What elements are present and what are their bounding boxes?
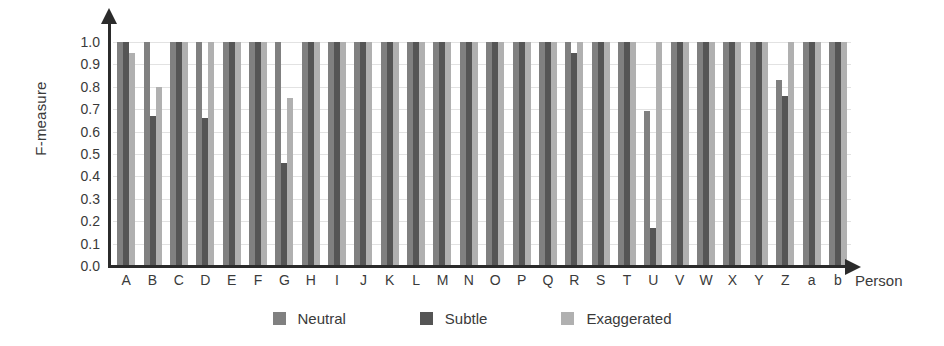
bar[interactable]: [156, 87, 162, 266]
x-axis-tick-label: A: [113, 272, 139, 288]
x-axis-tick-label: Y: [746, 272, 772, 288]
y-axis-tick-labels: 1.00.90.80.70.60.50.40.30.20.10.0: [56, 34, 100, 266]
bar[interactable]: [630, 42, 636, 266]
x-axis-tick-label: W: [693, 272, 719, 288]
x-axis-line: [108, 265, 848, 268]
bar[interactable]: [208, 42, 214, 266]
bar-group: [298, 42, 324, 266]
bar[interactable]: [129, 53, 135, 266]
bar[interactable]: [551, 42, 557, 266]
bar-group: [640, 42, 666, 266]
bar[interactable]: [525, 42, 531, 266]
bar[interactable]: [788, 42, 794, 266]
x-axis-tick-label: U: [640, 272, 666, 288]
x-axis-tick-label: P: [508, 272, 534, 288]
bar-group: [113, 42, 139, 266]
legend-entry[interactable]: Exaggerated: [561, 310, 671, 327]
legend-entry[interactable]: Neutral: [273, 310, 346, 327]
bar-group: [535, 42, 561, 266]
x-axis-tick-label: H: [298, 272, 324, 288]
bar-group: [429, 42, 455, 266]
bar[interactable]: [762, 42, 768, 266]
x-axis-tick-label: G: [271, 272, 297, 288]
y-axis-arrow-icon: [101, 8, 117, 24]
x-axis-tick-labels: ABCDEFGHIJKLMNOPQRSTUVWXYZab: [113, 272, 851, 288]
x-axis-tick-label: C: [166, 272, 192, 288]
y-axis-tick-label: 0.3: [56, 191, 100, 207]
x-axis-tick-label: T: [614, 272, 640, 288]
bar-group: [192, 42, 218, 266]
bar-group: [693, 42, 719, 266]
x-axis-tick-label: Z: [772, 272, 798, 288]
x-axis-tick-label: J: [350, 272, 376, 288]
bar-group: [614, 42, 640, 266]
bar-group: [166, 42, 192, 266]
legend-label: Exaggerated: [586, 310, 671, 327]
x-axis-tick-label: R: [561, 272, 587, 288]
bar-group: [456, 42, 482, 266]
bar-group: [746, 42, 772, 266]
bar[interactable]: [366, 42, 372, 266]
bar-group: [218, 42, 244, 266]
chart-legend: NeutralSubtleExaggerated: [0, 310, 944, 327]
x-axis-tick-label: b: [825, 272, 851, 288]
bar-group: [798, 42, 824, 266]
bar[interactable]: [577, 42, 583, 266]
bar[interactable]: [735, 42, 741, 266]
legend-swatch-neutral: [273, 312, 286, 325]
legend-swatch-subtle: [420, 312, 433, 325]
bar-group: [377, 42, 403, 266]
bar[interactable]: [709, 42, 715, 266]
bar-group: [482, 42, 508, 266]
plot-area: [113, 42, 851, 266]
bar[interactable]: [235, 42, 241, 266]
bar[interactable]: [683, 42, 689, 266]
x-axis-tick-label: N: [456, 272, 482, 288]
legend-label: Subtle: [445, 310, 488, 327]
bar-group: [587, 42, 613, 266]
bar-group: [271, 42, 297, 266]
y-axis-tick-label: 0.1: [56, 236, 100, 252]
bar-group: [825, 42, 851, 266]
legend-swatch-exaggerated: [561, 312, 574, 325]
bar-group: [561, 42, 587, 266]
y-axis-title: F-measure: [32, 39, 49, 199]
bar[interactable]: [419, 42, 425, 266]
y-axis-tick-label: 0.7: [56, 101, 100, 117]
y-axis-tick-label: 0.5: [56, 146, 100, 162]
bar-chart: F-measure 1.00.90.80.70.60.50.40.30.20.1…: [0, 0, 944, 346]
x-axis-tick-label: a: [798, 272, 824, 288]
bar-group: [667, 42, 693, 266]
bar[interactable]: [604, 42, 610, 266]
x-axis-tick-label: M: [429, 272, 455, 288]
bar[interactable]: [393, 42, 399, 266]
bar-group: [350, 42, 376, 266]
y-axis-tick-label: 0.6: [56, 124, 100, 140]
x-axis-tick-label: Q: [535, 272, 561, 288]
bar[interactable]: [314, 42, 320, 266]
bar-group: [719, 42, 745, 266]
legend-entry[interactable]: Subtle: [420, 310, 488, 327]
bar-group: [324, 42, 350, 266]
bar[interactable]: [498, 42, 504, 266]
y-axis-tick-label: 0.2: [56, 213, 100, 229]
bar[interactable]: [340, 42, 346, 266]
bar-group: [508, 42, 534, 266]
x-axis-tick-label: E: [218, 272, 244, 288]
y-axis-tick-label: 0.8: [56, 79, 100, 95]
x-axis-title: Person: [855, 272, 903, 289]
y-axis-tick-label: 0.0: [56, 258, 100, 274]
x-axis-tick-label: L: [403, 272, 429, 288]
bar[interactable]: [445, 42, 451, 266]
bar[interactable]: [656, 42, 662, 266]
x-axis-tick-label: K: [377, 272, 403, 288]
bar[interactable]: [472, 42, 478, 266]
bar[interactable]: [841, 42, 847, 266]
bar[interactable]: [287, 98, 293, 266]
bar[interactable]: [182, 42, 188, 266]
bars-layer: [113, 42, 851, 266]
bar[interactable]: [815, 42, 821, 266]
bar-group: [139, 42, 165, 266]
bar[interactable]: [261, 42, 267, 266]
y-axis-tick-label: 0.4: [56, 168, 100, 184]
